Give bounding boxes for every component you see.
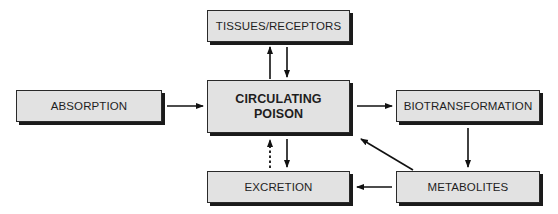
node-metabolites: METABOLITES xyxy=(396,171,540,203)
arrow-metabolites-to-circulating xyxy=(361,139,413,170)
node-circulating-poison: CIRCULATING POISON xyxy=(207,80,350,133)
node-tissues-receptors: TISSUES/RECEPTORS xyxy=(207,10,350,42)
node-label-line1: CIRCULATING xyxy=(235,92,321,107)
node-label-line2: POISON xyxy=(254,107,303,122)
node-label: METABOLITES xyxy=(428,181,509,193)
node-label: BIOTRANSFORMATION xyxy=(404,100,533,112)
node-label: EXCRETION xyxy=(245,181,313,193)
node-absorption: ABSORPTION xyxy=(16,90,162,122)
node-label: TISSUES/RECEPTORS xyxy=(216,20,341,32)
node-excretion: EXCRETION xyxy=(207,171,350,203)
node-biotransformation: BIOTRANSFORMATION xyxy=(396,90,540,122)
node-label: ABSORPTION xyxy=(51,100,127,112)
